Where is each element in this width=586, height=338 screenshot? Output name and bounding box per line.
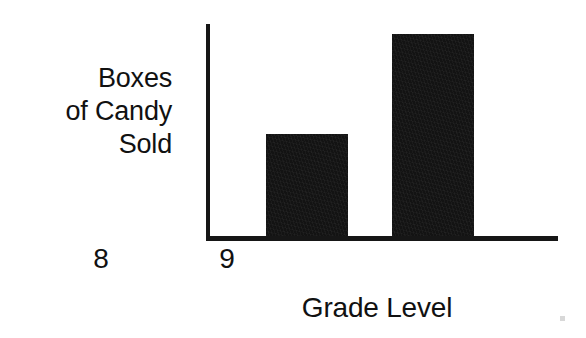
x-tick-label-grade-9: 9 (197, 244, 257, 274)
plot-area (206, 24, 558, 241)
bar-grade-9 (392, 34, 474, 236)
bar-chart-figure: Boxes of Candy Sold 8 9 Grade Level (0, 0, 586, 338)
y-axis-title-line-1: Boxes (20, 62, 172, 95)
scan-speck-artifact (560, 316, 565, 321)
x-axis-title: Grade Level (0, 292, 586, 324)
x-tick-label-grade-8: 8 (71, 244, 131, 274)
y-axis-title-line-2: of Candy (20, 95, 172, 128)
x-axis-title-text: Grade Level (302, 292, 452, 323)
y-axis-line (206, 24, 210, 241)
y-axis-title: Boxes of Candy Sold (20, 62, 172, 161)
y-axis-title-line-3: Sold (20, 128, 172, 161)
x-axis-line (206, 236, 558, 241)
bar-grade-8 (266, 134, 348, 236)
